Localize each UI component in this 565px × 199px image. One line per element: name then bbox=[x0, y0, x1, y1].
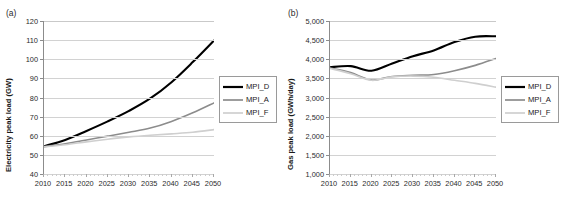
x-minor-tick-mark bbox=[449, 174, 450, 176]
x-minor-tick-mark bbox=[366, 174, 367, 176]
x-tick-label: 2020 bbox=[362, 179, 378, 188]
legend-swatch-mpi-a bbox=[505, 98, 525, 102]
x-minor-tick-mark bbox=[491, 174, 492, 176]
x-tick-mark bbox=[350, 174, 351, 177]
x-tick-label: 2035 bbox=[141, 179, 157, 188]
y-tick-mark bbox=[326, 117, 329, 118]
x-tick-mark bbox=[329, 174, 330, 177]
x-minor-tick-mark bbox=[354, 174, 355, 176]
x-tick-mark bbox=[391, 174, 392, 177]
y-tick-label: 4,000 bbox=[282, 55, 324, 64]
y-tick-mark bbox=[40, 117, 43, 118]
series-line-mpi-a bbox=[44, 103, 214, 147]
y-tick-mark bbox=[326, 40, 329, 41]
x-minor-tick-mark bbox=[424, 174, 425, 176]
gridline bbox=[44, 40, 214, 41]
y-tick-label: 60 bbox=[0, 131, 38, 140]
x-tick-label: 2030 bbox=[404, 179, 420, 188]
x-minor-tick-mark bbox=[183, 174, 184, 176]
x-minor-tick-mark bbox=[395, 174, 396, 176]
x-minor-tick-mark bbox=[429, 174, 430, 176]
panel-b-legend: MPI_D MPI_A MPI_F bbox=[501, 76, 559, 123]
x-minor-tick-mark bbox=[98, 174, 99, 176]
x-minor-tick-mark bbox=[341, 174, 342, 176]
x-minor-tick-mark bbox=[115, 174, 116, 176]
gridline bbox=[330, 155, 496, 156]
y-tick-label: 5,000 bbox=[282, 17, 324, 26]
x-minor-tick-mark bbox=[103, 174, 104, 176]
panel-a-legend: MPI_D MPI_A MPI_F bbox=[219, 76, 277, 123]
x-minor-tick-mark bbox=[73, 174, 74, 176]
y-tick-mark bbox=[326, 21, 329, 22]
x-minor-tick-mark bbox=[466, 174, 467, 176]
legend-item-mpi-f[interactable]: MPI_F bbox=[505, 106, 554, 119]
y-tick-mark bbox=[40, 136, 43, 137]
y-tick-label: 100 bbox=[0, 55, 38, 64]
x-minor-tick-mark bbox=[188, 174, 189, 176]
x-tick-label: 2035 bbox=[425, 179, 441, 188]
x-minor-tick-mark bbox=[404, 174, 405, 176]
gridline bbox=[44, 174, 214, 175]
y-tick-label: 90 bbox=[0, 74, 38, 83]
y-tick-mark bbox=[40, 59, 43, 60]
series-line-mpi-d bbox=[44, 41, 214, 147]
gridline bbox=[330, 21, 496, 22]
x-minor-tick-mark bbox=[375, 174, 376, 176]
x-tick-label: 2010 bbox=[321, 179, 337, 188]
x-minor-tick-mark bbox=[383, 174, 384, 176]
x-minor-tick-mark bbox=[158, 174, 159, 176]
x-tick-label: 2015 bbox=[342, 179, 358, 188]
gridline bbox=[330, 59, 496, 60]
x-minor-tick-mark bbox=[420, 174, 421, 176]
x-minor-tick-mark bbox=[175, 174, 176, 176]
gridline bbox=[330, 78, 496, 79]
x-minor-tick-mark bbox=[145, 174, 146, 176]
figure-container: (a) Electricity peak load (GW) 405060708… bbox=[0, 0, 565, 199]
x-minor-tick-mark bbox=[137, 174, 138, 176]
x-minor-tick-mark bbox=[69, 174, 70, 176]
x-tick-mark bbox=[192, 174, 193, 177]
legend-item-mpi-f[interactable]: MPI_F bbox=[223, 106, 272, 119]
panel-a-plot-area bbox=[43, 21, 214, 175]
x-minor-tick-mark bbox=[162, 174, 163, 176]
x-tick-label: 2045 bbox=[184, 179, 200, 188]
x-minor-tick-mark bbox=[346, 174, 347, 176]
legend-swatch-mpi-d bbox=[505, 85, 525, 89]
x-tick-mark bbox=[86, 174, 87, 177]
legend-swatch-mpi-f bbox=[505, 111, 525, 115]
y-tick-mark bbox=[40, 21, 43, 22]
x-tick-mark bbox=[43, 174, 44, 177]
x-minor-tick-mark bbox=[166, 174, 167, 176]
x-minor-tick-mark bbox=[141, 174, 142, 176]
y-tick-label: 40 bbox=[0, 170, 38, 179]
x-minor-tick-mark bbox=[387, 174, 388, 176]
x-tick-label: 2010 bbox=[35, 179, 51, 188]
x-tick-label: 2040 bbox=[445, 179, 461, 188]
x-minor-tick-mark bbox=[52, 174, 53, 176]
x-minor-tick-mark bbox=[77, 174, 78, 176]
legend-label-mpi-d: MPI_D bbox=[528, 82, 551, 91]
y-tick-mark bbox=[326, 98, 329, 99]
x-minor-tick-mark bbox=[379, 174, 380, 176]
y-tick-label: 110 bbox=[0, 36, 38, 45]
x-minor-tick-mark bbox=[132, 174, 133, 176]
y-tick-label: 3,500 bbox=[282, 74, 324, 83]
x-minor-tick-mark bbox=[470, 174, 471, 176]
legend-swatch-mpi-f bbox=[223, 111, 243, 115]
x-minor-tick-mark bbox=[205, 174, 206, 176]
gridline bbox=[330, 98, 496, 99]
x-minor-tick-mark bbox=[487, 174, 488, 176]
x-tick-mark bbox=[128, 174, 129, 177]
legend-item-mpi-a[interactable]: MPI_A bbox=[223, 93, 272, 106]
y-tick-mark bbox=[40, 155, 43, 156]
legend-item-mpi-d[interactable]: MPI_D bbox=[505, 80, 554, 93]
legend-item-mpi-d[interactable]: MPI_D bbox=[223, 80, 272, 93]
y-tick-label: 2,000 bbox=[282, 131, 324, 140]
x-tick-mark bbox=[454, 174, 455, 177]
y-tick-mark bbox=[326, 155, 329, 156]
x-tick-label: 2020 bbox=[77, 179, 93, 188]
gridline bbox=[44, 117, 214, 118]
x-minor-tick-mark bbox=[124, 174, 125, 176]
y-tick-label: 3,000 bbox=[282, 93, 324, 102]
legend-item-mpi-a[interactable]: MPI_A bbox=[505, 93, 554, 106]
